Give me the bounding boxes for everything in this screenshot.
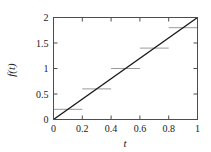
x-tick-label: 0.4 xyxy=(105,123,118,134)
x-tick-label: 1 xyxy=(195,123,200,134)
y-tick-label: 0 xyxy=(44,114,49,125)
x-tick-label: 0 xyxy=(51,123,56,134)
y-tick-label: 1.5 xyxy=(36,38,49,49)
y-axis-label: f(t) xyxy=(5,63,18,77)
y-tick-label: 1 xyxy=(44,63,49,74)
x-tick-label: 0.2 xyxy=(76,123,89,134)
y-tick-label: 2 xyxy=(44,12,49,23)
x-tick-label: 0.6 xyxy=(134,123,147,134)
chart-figure: 00.20.40.60.81 00.511.52 t f(t) xyxy=(0,0,211,152)
y-tick-label: 0.5 xyxy=(36,89,49,100)
x-tick-label: 0.8 xyxy=(162,123,175,134)
